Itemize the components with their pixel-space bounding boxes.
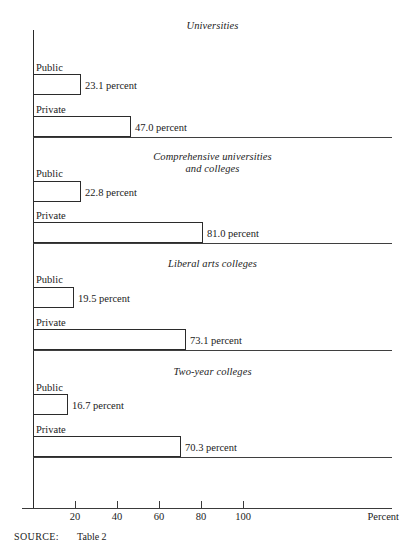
panel-divider-1	[33, 137, 392, 138]
panel-title-two-year: Two-year colleges	[33, 366, 392, 378]
x-axis-line	[22, 508, 392, 509]
bar-comprehensive-public	[33, 181, 81, 202]
bar-chart-figure: Universities Public 23.1 percent Private…	[0, 0, 411, 557]
bar-label-comprehensive-public: Public	[36, 168, 63, 179]
bar-label-liberal-arts-public: Public	[36, 274, 63, 285]
tick-label-40: 40	[112, 511, 123, 523]
panel-divider-3	[33, 350, 392, 351]
bar-comprehensive-private	[33, 222, 203, 243]
source-note: SOURCE:Table 2	[14, 531, 107, 543]
bar-value-universities-public: 23.1 percent	[85, 80, 137, 91]
bar-two-year-private	[33, 436, 181, 457]
tick-label-60: 60	[154, 511, 165, 523]
tick-mark-20	[75, 501, 76, 508]
tick-mark-40	[117, 501, 118, 508]
bar-value-universities-private: 47.0 percent	[135, 122, 187, 133]
panel-divider-2	[33, 243, 392, 244]
bar-label-universities-public: Public	[36, 62, 63, 73]
tick-label-20: 20	[70, 511, 81, 523]
tick-label-80: 80	[196, 511, 207, 523]
bar-label-two-year-private: Private	[36, 424, 66, 435]
bar-value-comprehensive-private: 81.0 percent	[207, 228, 259, 239]
bar-universities-private	[33, 116, 131, 137]
source-value: Table 2	[77, 531, 107, 543]
source-label: SOURCE:	[14, 531, 59, 542]
bar-two-year-public	[33, 394, 68, 415]
bar-value-liberal-arts-public: 19.5 percent	[78, 293, 130, 304]
tick-mark-100	[243, 501, 244, 508]
bar-value-comprehensive-public: 22.8 percent	[85, 187, 137, 198]
panel-title-universities: Universities	[33, 20, 392, 32]
panel-title-liberal-arts: Liberal arts colleges	[33, 258, 392, 270]
panel-divider-4	[33, 457, 392, 458]
tick-mark-80	[201, 501, 202, 508]
tick-mark-60	[159, 501, 160, 508]
bar-label-two-year-public: Public	[36, 382, 63, 393]
bar-label-universities-private: Private	[36, 104, 66, 115]
x-axis-unit-label: Percent	[368, 511, 400, 523]
bar-liberal-arts-public	[33, 287, 74, 308]
tick-label-100: 100	[235, 511, 251, 523]
bar-label-comprehensive-private: Private	[36, 210, 66, 221]
panel-title-comprehensive: Comprehensive universities and colleges	[33, 151, 392, 175]
bar-value-two-year-private: 70.3 percent	[185, 442, 237, 453]
bar-value-liberal-arts-private: 73.1 percent	[190, 335, 242, 346]
bar-liberal-arts-private	[33, 329, 186, 350]
bar-label-liberal-arts-private: Private	[36, 317, 66, 328]
bar-value-two-year-public: 16.7 percent	[72, 400, 124, 411]
bar-universities-public	[33, 74, 81, 95]
